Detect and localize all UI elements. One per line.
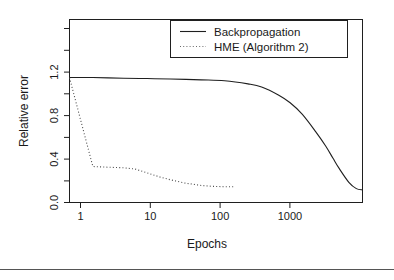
x-tick-label-1000: 1000 xyxy=(278,210,302,222)
relative-error-vs-epochs-chart: 0.0 0.4 0.8 1.2 1 10 100 1000 Epochs Rel… xyxy=(0,0,394,280)
y-axis-title: Relative error xyxy=(17,75,31,147)
legend-label-hme: HME (Algorithm 2) xyxy=(214,41,309,53)
x-tick-label-1: 1 xyxy=(77,210,83,222)
x-tick-label-10: 10 xyxy=(144,210,156,222)
x-tick-labels: 1 10 100 1000 xyxy=(77,210,302,222)
y-tick-label-1: 0.4 xyxy=(48,151,60,166)
y-tick-label-0: 0.0 xyxy=(48,195,60,210)
x-tick-label-100: 100 xyxy=(211,210,229,222)
series-group xyxy=(70,78,363,190)
legend-label-backpropagation: Backpropagation xyxy=(214,26,300,38)
y-tick-labels: 0.0 0.4 0.8 1.2 xyxy=(48,64,60,210)
chart-legend: Backpropagation HME (Algorithm 2) xyxy=(171,21,348,58)
series-line-hme xyxy=(70,78,234,187)
y-tick-label-2: 0.8 xyxy=(48,108,60,123)
footer-divider xyxy=(0,269,394,270)
series-line-backpropagation xyxy=(70,78,363,190)
chart-figure: 0.0 0.4 0.8 1.2 1 10 100 1000 Epochs Rel… xyxy=(0,0,394,280)
x-axis-ticks xyxy=(81,203,290,209)
y-axis-ticks xyxy=(64,29,70,203)
y-tick-label-3: 1.2 xyxy=(48,64,60,79)
x-axis-title: Epochs xyxy=(187,237,227,251)
